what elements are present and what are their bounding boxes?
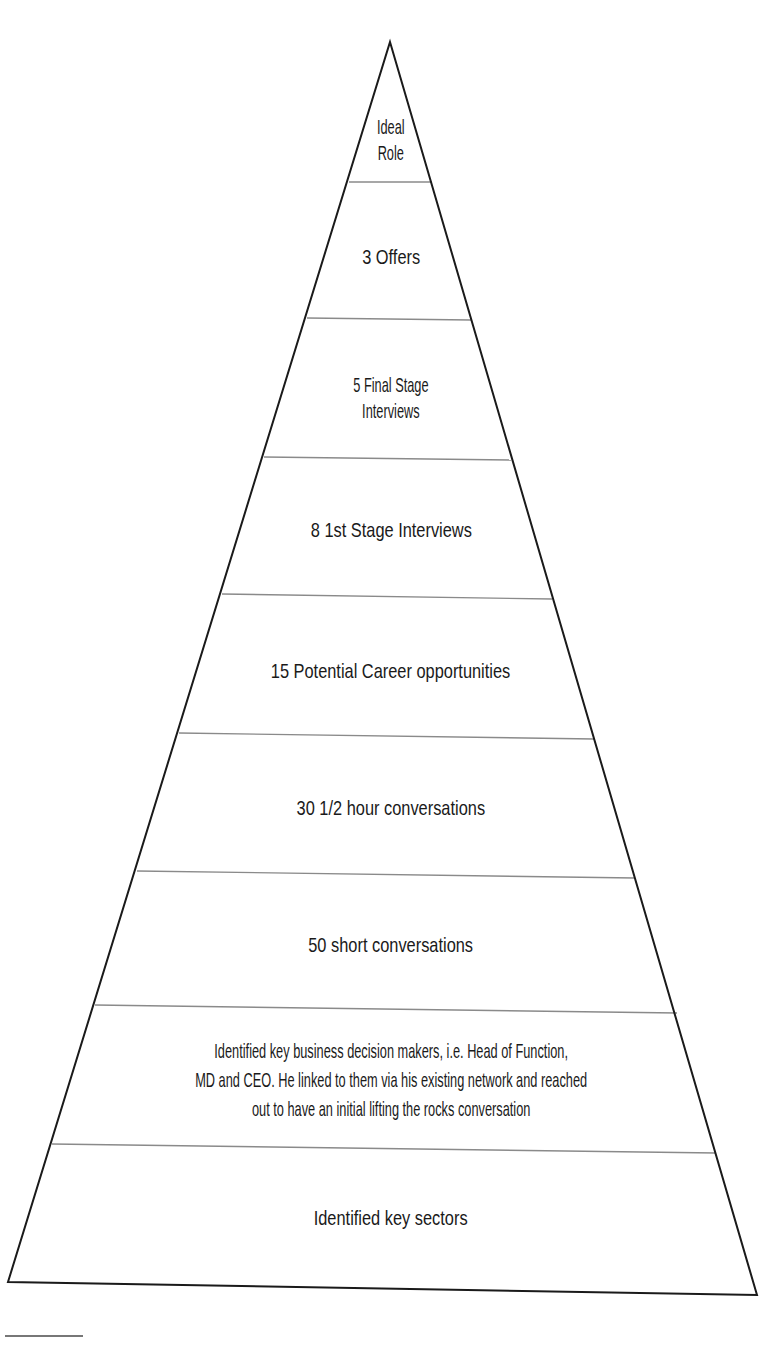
footnote-rule [5,1335,83,1337]
level-label-half-hour-conversations: 30 1/2 hour conversations [0,795,782,821]
level-label-key-sectors: Identified key sectors [0,1205,782,1231]
divider-6 [137,871,635,878]
divider-2 [307,318,471,320]
divider-7 [95,1005,677,1013]
level-text: 8 1st Stage Interviews [310,517,471,543]
level-label-first-stage-interviews: 8 1st Stage Interviews [0,517,782,543]
divider-4 [222,594,552,599]
level-text: Identified key business decision makers,… [195,1036,587,1065]
divider-5 [179,733,594,739]
divider-3 [264,457,511,460]
divider-8 [52,1144,716,1153]
level-label-short-conversations: 50 short conversations [0,932,782,958]
level-text: Identified key sectors [314,1205,468,1231]
level-text: 50 short conversations [309,932,474,958]
level-text: 5 Final Stage [353,372,428,398]
level-text: out to have an initial lifting the rocks… [195,1094,587,1123]
level-text: Interviews [353,398,428,424]
level-text: Role [377,140,405,166]
level-label-decision-makers: Identified key business decision makers,… [0,1036,782,1123]
level-text: 30 1/2 hour conversations [297,795,485,821]
level-text: 3 Offers [362,244,420,270]
level-label-ideal-role: IdealRole [0,114,782,166]
level-label-final-stage-interviews: 5 Final StageInterviews [0,372,782,424]
level-text: Ideal [377,114,405,140]
level-label-offers: 3 Offers [0,244,782,270]
level-text: MD and CEO. He linked to them via his ex… [195,1065,587,1094]
level-label-career-opportunities: 15 Potential Career opportunities [0,658,782,684]
level-text: 15 Potential Career opportunities [271,658,510,684]
